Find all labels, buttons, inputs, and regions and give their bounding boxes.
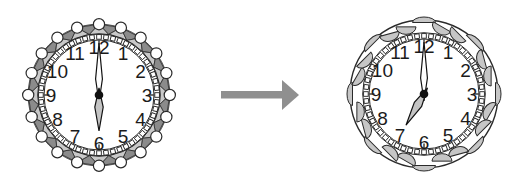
tick-square bbox=[479, 98, 484, 103]
right-arrow-icon bbox=[221, 80, 299, 110]
numeral-8: 8 bbox=[52, 109, 63, 130]
tick-square bbox=[155, 93, 160, 98]
numeral-8: 8 bbox=[377, 108, 388, 129]
tick-square bbox=[42, 113, 48, 119]
center-dot bbox=[95, 91, 104, 100]
bead bbox=[36, 131, 47, 142]
tick-square bbox=[153, 106, 159, 112]
tick-square bbox=[82, 149, 88, 155]
numeral-4: 4 bbox=[135, 109, 146, 130]
numeral-11: 11 bbox=[65, 43, 85, 64]
right-clock: 1 2 3 4 5 6 7 8 9 10 11 12 bbox=[339, 9, 509, 179]
tick-square bbox=[364, 98, 369, 103]
scallop-bump bbox=[413, 166, 436, 172]
bead bbox=[93, 160, 104, 171]
tick-square bbox=[154, 85, 159, 90]
tick-square bbox=[150, 71, 156, 77]
numeral-3: 3 bbox=[467, 84, 478, 105]
numeral-5: 5 bbox=[118, 126, 129, 147]
numeral-9: 9 bbox=[371, 84, 382, 105]
center-dot bbox=[420, 90, 429, 99]
numeral-3: 3 bbox=[142, 85, 153, 106]
tick-square bbox=[365, 77, 371, 83]
scallop-bump bbox=[496, 83, 502, 106]
transform-arrow bbox=[219, 74, 304, 116]
bead bbox=[26, 68, 37, 79]
bead bbox=[115, 157, 126, 168]
numeral-4: 4 bbox=[460, 108, 471, 129]
tick-square bbox=[367, 112, 373, 118]
tick-square bbox=[435, 148, 441, 154]
numeral-2: 2 bbox=[460, 60, 471, 81]
scallop-bump bbox=[413, 17, 436, 23]
bead bbox=[23, 89, 34, 100]
bead bbox=[72, 157, 83, 168]
tick-square bbox=[153, 78, 159, 84]
numeral-11: 11 bbox=[390, 42, 410, 63]
worksheet-figure: 1 2 3 4 5 6 7 8 9 10 11 12 1 bbox=[0, 0, 522, 185]
tick-square bbox=[39, 85, 44, 90]
bead bbox=[135, 147, 146, 158]
tick-square bbox=[39, 93, 44, 98]
bead bbox=[52, 32, 63, 43]
tick-square bbox=[407, 148, 413, 154]
tick-square bbox=[365, 105, 371, 111]
bead bbox=[151, 131, 162, 142]
tick-square bbox=[154, 99, 159, 104]
tick-square bbox=[110, 36, 116, 42]
bead bbox=[164, 89, 175, 100]
tick-square bbox=[479, 84, 484, 89]
numeral-1: 1 bbox=[443, 42, 454, 63]
tick-square bbox=[110, 149, 116, 155]
bead bbox=[52, 147, 63, 158]
tick-square bbox=[40, 78, 46, 84]
bead bbox=[161, 111, 172, 122]
scallop-bump bbox=[347, 83, 353, 106]
tick-square bbox=[480, 92, 485, 97]
bead bbox=[151, 48, 162, 59]
numeral-1: 1 bbox=[118, 43, 129, 64]
tick-square bbox=[475, 112, 481, 118]
tick-square bbox=[478, 105, 484, 111]
tick-square bbox=[364, 92, 369, 97]
tick-square bbox=[475, 70, 481, 76]
bead bbox=[26, 111, 37, 122]
numeral-9: 9 bbox=[46, 85, 57, 106]
tick-square bbox=[150, 113, 156, 119]
tick-square bbox=[435, 35, 441, 41]
numeral-2: 2 bbox=[135, 61, 146, 82]
numeral-7: 7 bbox=[395, 125, 406, 146]
numeral-6: 6 bbox=[94, 133, 105, 154]
tick-square bbox=[39, 99, 44, 104]
tick-square bbox=[407, 35, 413, 41]
numeral-7: 7 bbox=[70, 126, 81, 147]
bead bbox=[115, 22, 126, 33]
tick-square bbox=[364, 84, 369, 89]
bead bbox=[135, 32, 146, 43]
tick-square bbox=[82, 36, 88, 42]
tick-square bbox=[478, 77, 484, 83]
bead bbox=[93, 19, 104, 30]
tick-square bbox=[40, 106, 46, 112]
bead bbox=[72, 22, 83, 33]
numeral-6: 6 bbox=[419, 132, 430, 153]
numeral-5: 5 bbox=[443, 125, 454, 146]
bead bbox=[161, 68, 172, 79]
left-clock: 1 2 3 4 5 6 7 8 9 10 11 12 bbox=[14, 10, 184, 180]
bead bbox=[36, 48, 47, 59]
